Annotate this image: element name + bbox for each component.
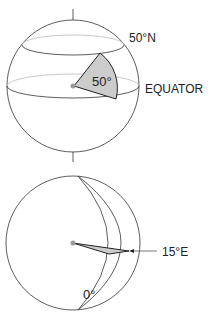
earth-center-dot bbox=[71, 84, 76, 89]
parallel-50n-back bbox=[22, 35, 124, 45]
earth-center-dot-2 bbox=[71, 241, 76, 246]
parallel-label: 50°N bbox=[129, 31, 156, 45]
prime-meridian-label: 0° bbox=[83, 287, 95, 302]
latitude-globe: 50° 50°N EQUATOR bbox=[7, 9, 204, 162]
arrow-head-icon bbox=[129, 249, 134, 253]
meridian-east-label: 15°E bbox=[162, 245, 188, 259]
latitude-longitude-diagram: 50° 50°N EQUATOR 15°E 0° bbox=[0, 0, 219, 328]
equator-label: EQUATOR bbox=[145, 82, 204, 96]
longitude-globe: 15°E 0° bbox=[6, 176, 188, 310]
angle-label: 50° bbox=[92, 74, 112, 89]
parallel-50n-front bbox=[22, 45, 124, 55]
